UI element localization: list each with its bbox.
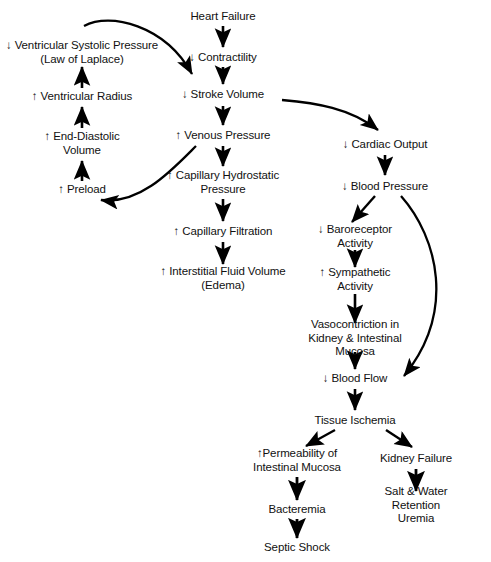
node-permeability-intestinal-mucosa: ↑Permeability of Intestinal Mucosa (253, 447, 341, 474)
node-tissue-ischemia: Tissue Ischemia (314, 414, 395, 428)
edge-tissue-ischemia-to-permeability (306, 430, 335, 446)
node-heart-failure: Heart Failure (190, 10, 255, 24)
node-sympathetic-activity: ↑ Sympathetic Activity (320, 266, 391, 293)
node-blood-flow: ↓ Blood Flow (323, 372, 388, 386)
node-salt-water-retention-uremia: Salt & Water Retention Uremia (379, 485, 454, 526)
node-bacteremia: Bacteremia (268, 503, 325, 517)
edge-stroke-volume-to-cardiac-output (282, 100, 378, 130)
node-capillary-filtration: ↑ Capillary Filtration (174, 225, 273, 239)
node-baroreceptor-activity: ↓ Baroreceptor Activity (318, 223, 392, 250)
node-end-diastolic-volume: ↑ End-Diastolic Volume (44, 130, 119, 157)
node-preload: ↑ Preload (58, 183, 106, 197)
edge-tissue-ischemia-to-kidney-failure (386, 430, 412, 447)
node-interstitial-fluid-volume: ↑ Interstitial Fluid Volume (Edema) (160, 265, 285, 292)
flowchart-canvas: Heart Failure↓ Contractility↓ Ventricula… (0, 0, 491, 562)
node-ventricular-radius: ↑ Ventricular Radius (32, 90, 132, 104)
edge-blood-pressure-to-baroreceptor (352, 196, 375, 222)
node-septic-shock: Septic Shock (264, 541, 330, 555)
node-blood-pressure: ↓ Blood Pressure (342, 180, 428, 194)
node-stroke-volume: ↓ Stroke Volume (182, 88, 264, 102)
node-kidney-failure: Kidney Failure (380, 452, 452, 466)
node-contractility: ↓ Contractility (189, 51, 257, 65)
node-cardiac-output: ↓ Cardiac Output (343, 138, 428, 152)
node-venous-pressure: ↑ Venous Pressure (176, 129, 271, 143)
node-capillary-hydrostatic-pressure: ↑ Capillary Hydrostatic Pressure (167, 169, 279, 196)
node-vasoconstriction: Vasocontriction in Kidney & Intestinal M… (287, 318, 423, 359)
node-ventricular-systolic-pressure: ↓ Ventricular Systolic Pressure (Law of … (6, 39, 158, 66)
